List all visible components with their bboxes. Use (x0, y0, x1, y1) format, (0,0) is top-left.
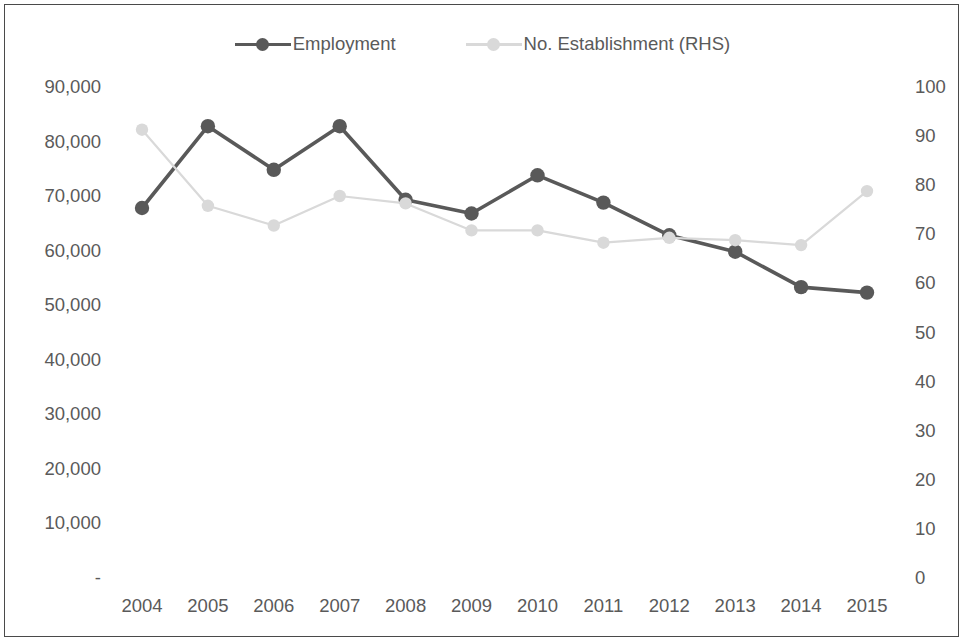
x-axis-tick: 2010 (502, 595, 572, 617)
chart-container: Employment No. Establishment (RHS) 90,00… (4, 4, 959, 637)
data-point (202, 200, 214, 212)
legend-label-employment: Employment (293, 33, 396, 55)
data-point (596, 195, 610, 209)
legend-item-establishment: No. Establishment (RHS) (466, 33, 731, 55)
legend-dot-establishment (487, 38, 500, 51)
y-axis-right-tick: 20 (915, 469, 965, 491)
y-axis-left-tick: - (15, 567, 101, 589)
legend-marker-employment (235, 37, 291, 51)
data-point (530, 168, 544, 182)
x-axis-tick: 2006 (239, 595, 309, 617)
y-axis-right-tick: 100 (915, 76, 965, 98)
data-point (795, 239, 807, 251)
y-axis-right-tick: 30 (915, 420, 965, 442)
y-axis-left-tick: 90,000 (15, 76, 101, 98)
y-axis-left-tick: 30,000 (15, 403, 101, 425)
y-axis-left-tick: 80,000 (15, 131, 101, 153)
y-axis-right-tick: 90 (915, 125, 965, 147)
y-axis-left-tick: 40,000 (15, 349, 101, 371)
data-point (268, 219, 280, 231)
data-point (333, 119, 347, 133)
series-line-employment (142, 126, 867, 292)
data-point (597, 237, 609, 249)
data-point (136, 124, 148, 136)
data-point (465, 224, 477, 236)
data-point (398, 193, 412, 207)
x-axis-tick: 2008 (371, 595, 441, 617)
data-point (729, 234, 741, 246)
x-axis-tick: 2015 (832, 595, 902, 617)
data-point (861, 185, 873, 197)
legend-dot-employment (256, 38, 269, 51)
y-axis-right-tick: 80 (915, 174, 965, 196)
x-axis-tick: 2004 (107, 595, 177, 617)
x-axis-tick: 2012 (634, 595, 704, 617)
data-point (794, 280, 808, 294)
data-point (399, 197, 411, 209)
data-point (531, 224, 543, 236)
x-axis-tick: 2013 (700, 595, 770, 617)
legend-item-employment: Employment (235, 33, 396, 55)
data-point (135, 201, 149, 215)
x-axis-tick: 2014 (766, 595, 836, 617)
series-line-establishment (142, 130, 867, 245)
data-point (201, 119, 215, 133)
plot-area (5, 5, 960, 638)
x-axis-tick: 2007 (305, 595, 375, 617)
y-axis-right-tick: 60 (915, 272, 965, 294)
y-axis-right-tick: 40 (915, 371, 965, 393)
y-axis-left-tick: 20,000 (15, 458, 101, 480)
x-axis-tick: 2005 (173, 595, 243, 617)
data-point (334, 190, 346, 202)
y-axis-left-tick: 70,000 (15, 185, 101, 207)
y-axis-right-tick: 50 (915, 322, 965, 344)
y-axis-left-tick: 50,000 (15, 294, 101, 316)
y-axis-right-tick: 70 (915, 223, 965, 245)
y-axis-right-tick: 10 (915, 518, 965, 540)
y-axis-left-tick: 10,000 (15, 512, 101, 534)
data-point (267, 163, 281, 177)
data-point (662, 228, 676, 242)
data-point (860, 285, 874, 299)
y-axis-left-tick: 60,000 (15, 240, 101, 262)
data-point (663, 232, 675, 244)
legend-marker-establishment (466, 37, 522, 51)
data-point (728, 245, 742, 259)
y-axis-right-tick: 0 (915, 567, 965, 589)
data-point (464, 206, 478, 220)
x-axis-tick: 2009 (437, 595, 507, 617)
x-axis-tick: 2011 (568, 595, 638, 617)
chart-legend: Employment No. Establishment (RHS) (5, 33, 960, 55)
legend-label-establishment: No. Establishment (RHS) (524, 33, 731, 55)
